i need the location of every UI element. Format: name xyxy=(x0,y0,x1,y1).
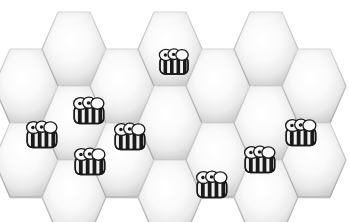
bee-icon[interactable] xyxy=(70,143,110,179)
honeycomb-scene xyxy=(0,0,350,222)
bee-icon[interactable] xyxy=(281,114,321,150)
bee-icon[interactable] xyxy=(110,118,150,154)
bee-layer xyxy=(0,0,350,222)
bee-icon[interactable] xyxy=(22,116,62,152)
bee-icon[interactable] xyxy=(155,44,193,78)
bee-icon[interactable] xyxy=(192,166,232,202)
bee-icon[interactable] xyxy=(69,92,109,128)
bee-icon[interactable] xyxy=(240,141,280,177)
